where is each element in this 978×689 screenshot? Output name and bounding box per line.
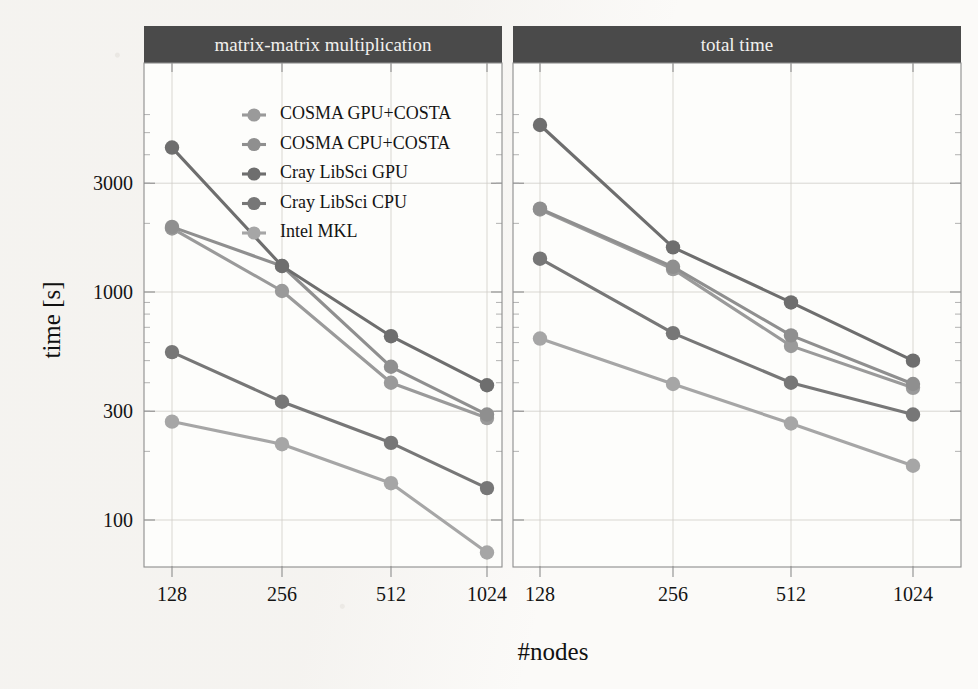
figure-container: matrix-matrix multiplication COSMA GPU+C…: [0, 0, 978, 689]
data-point: [275, 259, 289, 273]
panel2-background: [513, 26, 961, 567]
data-point: [480, 378, 494, 392]
y-tick-label: 3000: [93, 172, 133, 194]
data-point: [666, 377, 680, 391]
data-point: [533, 201, 547, 215]
y-axis-title: time [s]: [38, 281, 65, 358]
y-tick-label: 300: [103, 400, 133, 422]
data-point: [666, 240, 680, 254]
panel2-title: total time: [701, 34, 773, 55]
panel1-title: matrix-matrix multiplication: [215, 34, 432, 55]
x-tick-label: 512: [776, 583, 806, 605]
data-point: [906, 459, 920, 473]
legend-marker-dot: [247, 167, 260, 180]
data-point: [666, 326, 680, 340]
legend-label: Cray LibSci CPU: [280, 192, 407, 212]
data-point: [384, 360, 398, 374]
data-point: [533, 331, 547, 345]
data-point: [165, 220, 179, 234]
data-point: [480, 407, 494, 421]
legend-marker-dot: [247, 226, 260, 239]
panel-matrix-matrix-multiplication: matrix-matrix multiplication COSMA GPU+C…: [144, 26, 502, 577]
x-tick-label: 128: [525, 583, 555, 605]
data-point: [165, 140, 179, 154]
data-point: [384, 376, 398, 390]
x-tick-label: 1024: [893, 583, 933, 605]
x-tick-label: 256: [658, 583, 688, 605]
legend-label: Cray LibSci GPU: [280, 162, 408, 182]
y-tick-label: 100: [103, 509, 133, 531]
data-point: [480, 481, 494, 495]
data-point: [784, 328, 798, 342]
x-tick-label: 128: [157, 583, 187, 605]
panel-total-time: total time: [513, 26, 961, 577]
y-axis-tick-labels: 30001000300100: [93, 172, 133, 531]
legend-marker-dot: [247, 138, 260, 151]
data-point: [533, 251, 547, 265]
x-tick-label: 512: [376, 583, 406, 605]
x-axis-title: #nodes: [518, 638, 589, 665]
chart-svg: matrix-matrix multiplication COSMA GPU+C…: [0, 0, 978, 689]
data-point: [784, 295, 798, 309]
legend-marker-dot: [247, 197, 260, 210]
y-tick-label: 1000: [93, 281, 133, 303]
x-tick-label: 1024: [467, 583, 507, 605]
data-point: [784, 416, 798, 430]
data-point: [666, 260, 680, 274]
data-point: [384, 436, 398, 450]
data-point: [165, 414, 179, 428]
data-point: [906, 353, 920, 367]
data-point: [275, 284, 289, 298]
data-point: [480, 545, 494, 559]
legend-label: Intel MKL: [280, 221, 357, 241]
data-point: [384, 329, 398, 343]
data-point: [275, 395, 289, 409]
legend-marker-dot: [247, 108, 260, 121]
data-point: [165, 345, 179, 359]
x-axis-tick-labels: 12825651210241282565121024: [157, 583, 933, 605]
data-point: [906, 407, 920, 421]
data-point: [275, 437, 289, 451]
data-point: [906, 377, 920, 391]
data-point: [533, 118, 547, 132]
data-point: [784, 376, 798, 390]
x-tick-label: 256: [267, 583, 297, 605]
legend-label: COSMA CPU+COSTA: [280, 133, 450, 153]
data-point: [384, 476, 398, 490]
legend-label: COSMA GPU+COSTA: [280, 103, 451, 123]
